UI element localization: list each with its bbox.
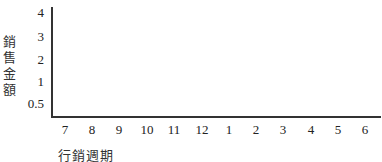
x-tick: 5 — [326, 123, 350, 137]
x-tick: 12 — [190, 123, 214, 137]
x-tick: 3 — [271, 123, 295, 137]
x-tick: 7 — [53, 123, 77, 137]
x-tick: 10 — [135, 123, 159, 137]
y-axis-label: 銷售金額 — [3, 34, 19, 98]
x-tick: 8 — [80, 123, 104, 137]
y-tick: 4 — [24, 6, 44, 20]
y-tick: 2 — [24, 53, 44, 67]
y-tick: 3 — [24, 30, 44, 44]
x-axis — [51, 116, 381, 118]
x-tick: 4 — [299, 123, 323, 137]
y-axis — [51, 7, 53, 118]
x-tick: 1 — [217, 123, 241, 137]
x-tick: 6 — [353, 123, 377, 137]
y-tick: 0.5 — [24, 97, 44, 111]
x-tick: 11 — [162, 123, 186, 137]
y-tick: 1 — [24, 75, 44, 89]
x-tick: 2 — [244, 123, 268, 137]
x-axis-label: 行銷週期 — [58, 145, 114, 162]
x-tick: 9 — [107, 123, 131, 137]
